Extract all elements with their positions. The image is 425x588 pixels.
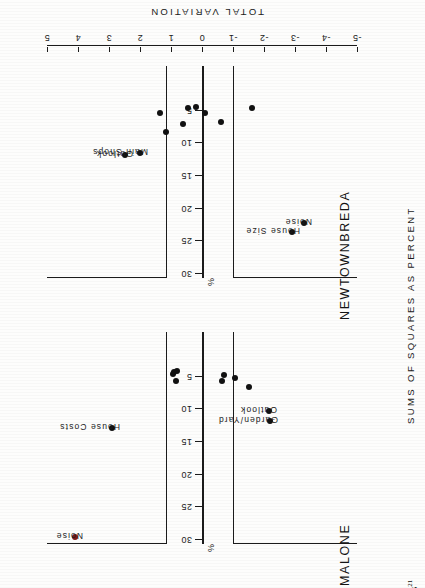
percent-tick-malone-20 [195,474,202,475]
rotated-figure-wrapper: 51015202530%NoiseHouse CostsOutlookGarde… [0,0,425,588]
data-point-malone-5 [174,368,180,374]
frame-pos-malone [166,332,167,544]
percent-tick-label-newtownbreda: 25 [180,236,191,246]
data-point-newtownbreda-3 [157,110,163,116]
point-label-noise: Noise [55,531,82,541]
data-point-newtownbreda-8 [217,119,223,125]
variation-tick-1 [171,47,172,52]
figure-canvas: 51015202530%NoiseHouse CostsOutlookGarde… [13,14,413,574]
variation-tick-label: -2 [259,33,268,43]
point-label-house-size: House Size [245,226,299,236]
percent-tick-newtownbreda-20 [195,208,202,209]
percent-tick-newtownbreda-25 [195,240,202,241]
percent-symbol-malone: % [206,544,216,552]
variation-tick-label: 5 [44,33,50,43]
variation-tick-label: -1 [228,33,237,43]
percent-tick-malone-30 [195,539,202,540]
variation-tick--1 [233,47,234,52]
variation-tick-label: 0 [199,33,205,43]
percent-tick-malone-5 [195,376,202,377]
data-point-newtownbreda-9 [248,105,254,111]
variation-tick-label: 4 [75,33,81,43]
percent-tick-label-malone: 20 [180,470,191,480]
data-point-newtownbreda-5 [185,105,191,111]
variation-tick-label: -4 [321,33,330,43]
data-point-malone-7 [220,372,226,378]
percent-tick-label-newtownbreda: 10 [180,138,191,148]
frame-neg-malone [233,332,234,544]
variation-tick-label: -5 [352,33,361,43]
percent-tick-label-malone: 15 [180,437,191,447]
variation-tick--3 [295,47,296,52]
percent-tick-malone-15 [195,441,202,442]
point-label-main-shops: Main Shops [92,147,148,157]
data-point-malone-8 [231,375,237,381]
data-point-newtownbreda-6 [192,104,198,110]
variation-tick-label: 3 [106,33,112,43]
variation-tick-label: 2 [137,33,143,43]
frame-neg-newtownbreda [233,66,234,278]
percent-tick-malone-25 [195,506,202,507]
percent-tick-label-malone: 30 [180,535,191,545]
y-axis-title: SUMS OF SQUARES AS PERCENT [405,206,416,424]
point-label-outlook: Outlook [239,405,276,415]
figure-footnote-marker: 21 [406,580,414,587]
frame-pos-newtownbreda [166,66,167,278]
percent-tick-newtownbreda-15 [195,175,202,176]
percent-tick-newtownbreda-10 [195,142,202,143]
variation-tick-3 [109,47,110,52]
frame-pos-end-newtownbreda [47,277,166,278]
variation-tick-label: 1 [168,33,174,43]
point-label-house-costs: House Costs [59,422,120,432]
variation-tick-5 [47,47,48,52]
variation-tick--2 [264,47,265,52]
data-point-newtownbreda-7 [202,110,208,116]
variation-tick-label: -3 [290,33,299,43]
total-variation-axis [47,45,357,46]
percent-tick-label-malone: 10 [180,404,191,414]
figure-caption: Figure 8.12 Element totals and sums of s… [406,580,419,588]
percent-tick-newtownbreda-30 [195,273,202,274]
variation-tick--4 [326,47,327,52]
frame-pos-end-malone [47,543,166,544]
data-point-malone-6 [219,378,225,384]
figure-page: 51015202530%NoiseHouse CostsOutlookGarde… [0,0,425,588]
percent-tick-label-newtownbreda: 15 [180,171,191,181]
variation-tick--5 [357,47,358,52]
data-point-malone-9 [245,384,251,390]
panel-title-newtownbreda: NEWTOWNBREDA [338,191,352,320]
x-axis-title: TOTAL VARIATION [149,7,264,18]
percent-tick-label-newtownbreda: 30 [180,269,191,279]
variation-tick-2 [140,47,141,52]
percent-tick-label-newtownbreda: 20 [180,204,191,214]
point-label-garden-yard: Garden/Yard [218,415,278,425]
percent-tick-malone-10 [195,408,202,409]
percent-tick-label-malone: 25 [180,502,191,512]
percent-ruler-newtownbreda [202,66,204,278]
variation-tick-0 [202,47,203,52]
data-point-malone-2 [172,378,178,384]
variation-tick-4 [78,47,79,52]
percent-ruler-malone [202,332,204,544]
percent-tick-label-malone: 5 [186,372,192,382]
panel-title-malone: MALONE [338,524,352,586]
point-label-noise: Noise [285,217,312,227]
data-point-newtownbreda-2 [163,129,169,135]
data-point-newtownbreda-4 [180,121,186,127]
percent-symbol-newtownbreda: % [206,278,216,286]
